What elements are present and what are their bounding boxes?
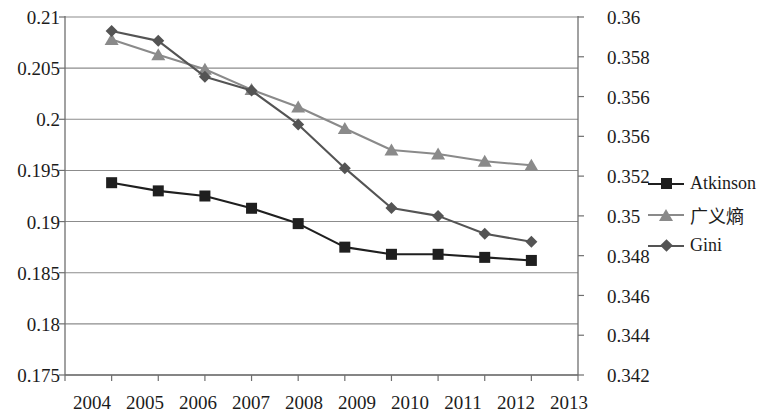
square-marker-icon bbox=[648, 177, 684, 191]
legend-label-generalized-entropy: 广义熵 bbox=[690, 202, 744, 228]
x-axis-ticks bbox=[65, 375, 578, 381]
chart-legend: Atkinson 广义熵 Gini bbox=[648, 168, 765, 261]
legend-label-gini: Gini bbox=[690, 235, 722, 256]
gridlines bbox=[65, 17, 578, 375]
legend-label-atkinson: Atkinson bbox=[690, 173, 756, 194]
chart-figure: 0.21 0.205 0.2 0.195 0.19 0.185 0.18 0.1… bbox=[0, 0, 765, 420]
legend-item-gini: Gini bbox=[648, 230, 765, 261]
triangle-marker-icon bbox=[648, 208, 684, 222]
series-triangle bbox=[105, 33, 539, 171]
legend-item-generalized-entropy: 广义熵 bbox=[648, 199, 765, 230]
axis-lines bbox=[65, 16, 578, 375]
diamond-marker-icon bbox=[648, 239, 684, 253]
data-series-layer bbox=[105, 25, 539, 266]
y-axis-right-ticks bbox=[578, 17, 584, 375]
legend-item-atkinson: Atkinson bbox=[648, 168, 765, 199]
y-axis-left-ticks bbox=[59, 17, 65, 375]
